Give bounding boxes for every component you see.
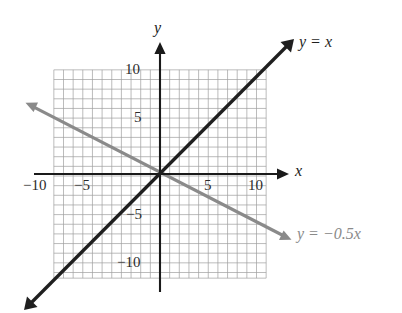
- line-label-y-equals-x: y = x: [299, 34, 332, 50]
- y-tick-label-5: 5: [134, 110, 142, 125]
- line-label-y-equals-minus-half-x: y = −0.5x: [297, 226, 361, 242]
- y-tick-label-minus-5: −5: [126, 207, 142, 222]
- x-tick-label-minus-5: −5: [74, 178, 90, 193]
- coordinate-plane-svg: [0, 0, 402, 313]
- line-y-equals-minus-half-x: [26, 102, 292, 240]
- y-tick-label-minus-10: −10: [117, 255, 140, 270]
- x-tick-label-5: 5: [204, 178, 212, 193]
- x-tick-label-10: 10: [248, 178, 263, 193]
- x-axis-label: x: [295, 163, 302, 179]
- y-axis-label: y: [154, 20, 161, 36]
- y-tick-label-10: 10: [125, 62, 140, 77]
- graph-figure: 10 5 −5 −10 −10 −5 5 10 y x y = x y = −0…: [0, 0, 402, 313]
- x-tick-label-minus-10: −10: [23, 178, 46, 193]
